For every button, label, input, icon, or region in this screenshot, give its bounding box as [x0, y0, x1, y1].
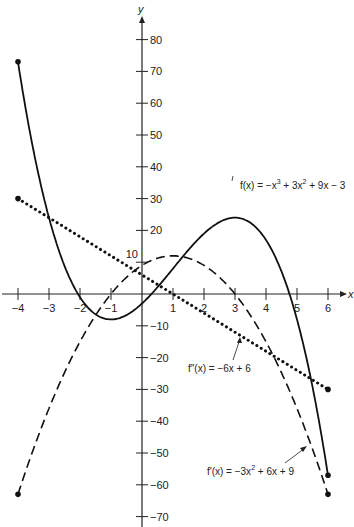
x-tick-label: −3	[43, 302, 56, 314]
y-tick-label: 80	[150, 34, 162, 46]
y-tick-label: −60	[150, 479, 169, 491]
endpoint-dot	[15, 196, 21, 202]
y-tick-label: −10	[150, 320, 169, 332]
x-tick-label: −4	[12, 302, 25, 314]
function-graph: xy−4−3−2−11234568070605040302010−10−20−3…	[0, 0, 354, 527]
curves	[15, 59, 331, 497]
y-tick-label: −30	[150, 383, 169, 395]
y-tick-label: −40	[150, 415, 169, 427]
y-axis-label: y	[137, 3, 145, 15]
fp-equation-label: f′(x) = −3x2 + 6x + 9	[207, 464, 294, 477]
y-tick-label: −70	[150, 511, 169, 523]
y-tick-label: −50	[150, 447, 169, 459]
endpoint-dot	[15, 59, 21, 65]
x-tick-label: −1	[105, 302, 118, 314]
x-axis-arrow-icon	[340, 291, 347, 297]
y-tick-label: 30	[150, 193, 162, 205]
y-tick-label: 20	[150, 224, 162, 236]
x-tick-label: 1	[170, 302, 176, 314]
fpp-arrowhead	[237, 337, 242, 343]
y-axis-arrow-icon	[139, 16, 145, 23]
endpoint-dot	[325, 387, 331, 393]
f-curve	[18, 62, 328, 475]
y-tick-label: 10	[126, 248, 138, 260]
y-tick-label: 40	[150, 161, 162, 173]
x-tick-label: 6	[325, 302, 331, 314]
f-equation-label: f(x) = −x3 + 3x2 + 9x − 3	[240, 178, 346, 191]
y-tick-label: −20	[150, 352, 169, 364]
x-tick-label: 3	[232, 302, 238, 314]
y-tick-label: 50	[150, 129, 162, 141]
y-tick-label: 70	[150, 65, 162, 77]
y-tick-label: 60	[150, 97, 162, 109]
f-pointer	[232, 176, 233, 181]
fpp-equation-label: f″(x) = −6x + 6	[188, 363, 251, 374]
endpoint-dot	[15, 492, 21, 498]
endpoint-dot	[325, 472, 331, 478]
annotations: f(x) = −x3 + 3x2 + 9x − 3 f″(x) = −6x + …	[188, 176, 346, 477]
x-tick-label: 4	[263, 302, 269, 314]
endpoint-dot	[325, 492, 331, 498]
x-axis-label: x	[347, 288, 354, 300]
